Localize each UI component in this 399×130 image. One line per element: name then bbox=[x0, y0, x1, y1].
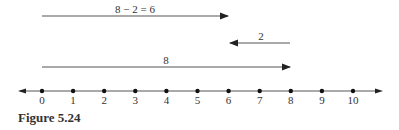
tick-point bbox=[289, 89, 293, 93]
tick-label: 4 bbox=[164, 95, 170, 106]
tick-point bbox=[226, 89, 230, 93]
axis-right-arrow-icon bbox=[375, 89, 383, 94]
tick-point bbox=[40, 89, 44, 93]
tick-label: 8 bbox=[288, 95, 294, 106]
tick-label: 10 bbox=[348, 95, 359, 106]
tick-label: 1 bbox=[70, 95, 76, 106]
tick-point bbox=[320, 89, 324, 93]
tick-label: 2 bbox=[101, 95, 107, 106]
tick-label: 5 bbox=[195, 95, 201, 106]
tick-point bbox=[102, 89, 106, 93]
tick-point bbox=[351, 89, 355, 93]
tick-label: 6 bbox=[226, 95, 232, 106]
tick-label: 7 bbox=[257, 95, 263, 106]
tick-point bbox=[195, 89, 199, 93]
arrow-label-minuend: 8 bbox=[163, 55, 169, 66]
axis-left-arrow-icon bbox=[18, 89, 26, 94]
arrow-label-difference: 8 − 2 = 6 bbox=[115, 4, 155, 15]
tick-point bbox=[258, 89, 262, 93]
tick-label: 0 bbox=[39, 95, 45, 106]
tick-label: 9 bbox=[319, 95, 325, 106]
tick-label: 3 bbox=[133, 95, 139, 106]
arrow-label-subtrahend: 2 bbox=[258, 31, 264, 42]
tick-point bbox=[71, 89, 75, 93]
figure-caption: Figure 5.24 bbox=[18, 110, 81, 126]
tick-point bbox=[164, 89, 168, 93]
figure-5-24: 8 − 2 = 6 2 8 012345678910 Figure 5.24 bbox=[0, 0, 399, 130]
tick-point bbox=[133, 89, 137, 93]
